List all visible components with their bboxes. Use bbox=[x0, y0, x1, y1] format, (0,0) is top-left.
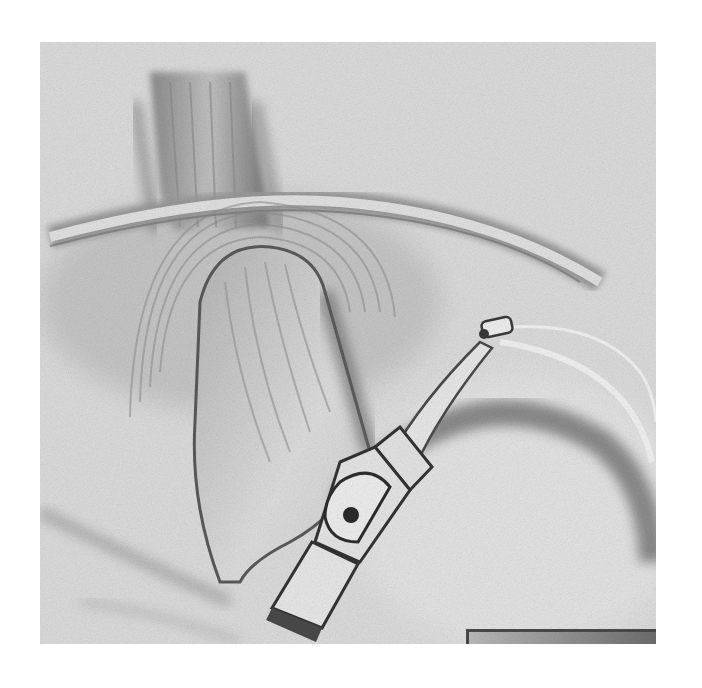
scale-bar bbox=[466, 629, 656, 644]
illustration-figure bbox=[40, 42, 656, 644]
device-pivot-hole bbox=[343, 507, 359, 523]
illustration-canvas bbox=[40, 42, 656, 644]
